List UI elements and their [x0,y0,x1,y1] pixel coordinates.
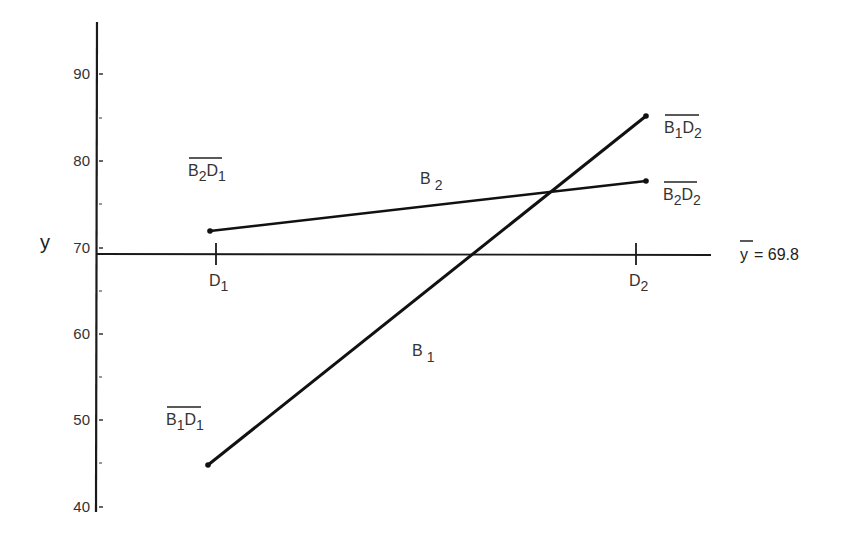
point-b2d2 [643,178,649,184]
series-label-b2: B2 [420,170,443,193]
point-label-b2d1: B2D1 [188,162,226,184]
y-minor-ticks [99,118,102,463]
series-b2-line [210,181,646,231]
y-tick-label-80: 80 [73,152,90,169]
y-tick-label-40: 40 [73,498,90,515]
point-label-b2d2: B2D2 [663,186,701,208]
y-tick-label-90: 90 [73,65,90,82]
x-label-d1: D1 [209,272,229,294]
series-label-b1: B1 [412,342,435,365]
y-axis [96,22,97,512]
point-b1d2 [643,113,649,119]
interaction-plot: 90 80 70 60 50 40 y D1 D2 y= 69.8 B2 B1 … [0,0,866,542]
point-b1d1 [205,462,211,468]
y-tick-label-70: 70 [73,239,90,256]
y-axis-title: y [40,231,50,253]
point-label-b1d2: B1D2 [664,119,702,141]
y-tick-label-60: 60 [73,325,90,342]
point-label-b1d1: B1D1 [166,411,204,433]
point-b2d1 [207,228,213,234]
x-label-d2: D2 [629,272,649,294]
y-tick-label-50: 50 [73,411,90,428]
mean-label: y= 69.8 [740,246,799,263]
mean-reference-line [97,254,711,255]
series-b1-line [208,116,646,465]
